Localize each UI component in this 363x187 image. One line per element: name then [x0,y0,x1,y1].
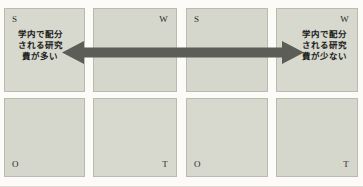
swot-letter-o: O [12,160,19,169]
page-bottom-rule [0,186,363,187]
swot-letter-w: W [159,15,168,24]
caption-right-line1: 学内で配分 [290,29,358,40]
swot-cell-opportunities-right[interactable]: O [186,98,268,177]
swot-letter-t: T [343,160,349,169]
swot-cell-opportunities-left[interactable]: O [4,98,85,177]
caption-right-line3: 費が少ない [290,51,358,62]
swot-cell-strengths-right[interactable]: S [186,8,268,92]
swot-letter-s: S [194,15,199,24]
swot-letter-s: S [12,15,17,24]
swot-cell-threats-left[interactable]: T [93,98,177,177]
caption-right-line2: される研究 [290,40,358,51]
swot-cell-weaknesses-left[interactable]: W [93,8,177,92]
swot-letter-t: T [162,160,168,169]
caption-left-line1: 学内で配分 [6,29,74,40]
swot-letter-o: O [194,160,201,169]
caption-right-budget-low: 学内で配分 される研究 費が少ない [290,29,358,63]
caption-left-budget-high: 学内で配分 される研究 費が多い [6,29,74,63]
caption-left-line3: 費が多い [6,51,74,62]
diagram-canvas: S W O T S W O T 学内で配分 される研究 費が多い 学内で配分 [0,0,363,187]
swot-letter-w: W [340,15,349,24]
caption-left-line2: される研究 [6,40,74,51]
swot-cell-threats-right[interactable]: T [276,98,358,177]
